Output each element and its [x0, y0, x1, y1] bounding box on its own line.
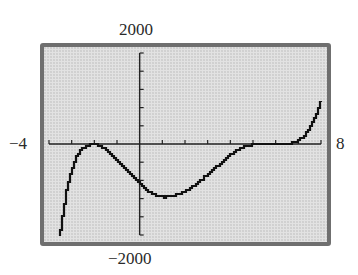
calculator-graph-screen	[40, 43, 331, 246]
y-min-label: −2000	[108, 250, 152, 267]
y-max-label: 2000	[119, 21, 153, 38]
x-min-label: −4	[9, 135, 27, 152]
x-max-label: 8	[336, 135, 345, 152]
